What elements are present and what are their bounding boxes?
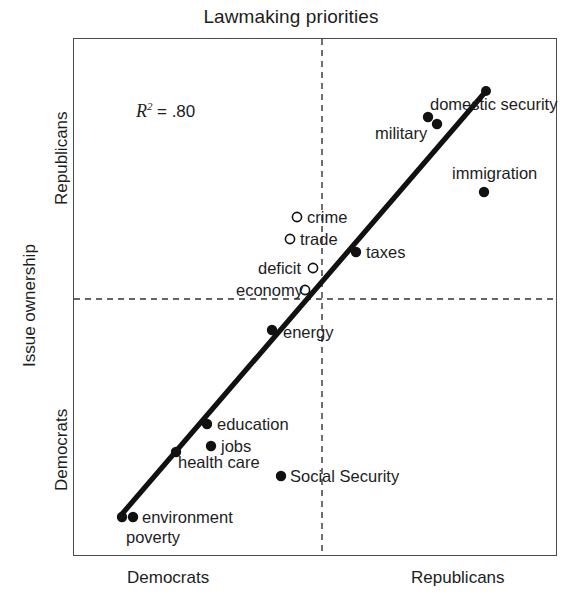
point-label-environment: environment (142, 509, 233, 526)
data-point-energy (267, 325, 277, 335)
data-point-immigration (479, 187, 489, 197)
point-label-social-security: Social Security (290, 468, 399, 485)
point-label-immigration: immigration (452, 165, 537, 182)
y-axis-label-republicans: Republicans (52, 111, 72, 205)
data-point-military (432, 119, 442, 129)
point-label-crime: crime (307, 209, 347, 226)
r-squared-symbol: R (136, 101, 147, 121)
point-label-poverty: poverty (126, 529, 180, 546)
data-point-domestic-security (423, 112, 433, 122)
r-squared-exponent: 2 (147, 100, 153, 112)
point-label-domestic-security: domestic security (430, 96, 557, 113)
y-axis-label-democrats: Democrats (52, 409, 72, 491)
point-label-military: military (375, 125, 427, 142)
data-point-environment (128, 512, 138, 522)
data-point-jobs (206, 441, 216, 451)
data-point-social-security (276, 471, 286, 481)
data-point-deficit (308, 263, 317, 272)
point-label-taxes: taxes (366, 244, 405, 261)
r-squared-value: = .80 (157, 102, 195, 121)
point-label-economy: economy (236, 282, 303, 299)
point-label-trade: trade (300, 231, 338, 248)
x-axis-label-democrats: Democrats (127, 568, 209, 588)
data-point-taxes (351, 247, 361, 257)
data-point-poverty (117, 512, 127, 522)
y-axis-title: Issue ownership (20, 244, 40, 367)
point-label-education: education (217, 416, 289, 433)
x-axis-label-republicans: Republicans (411, 568, 505, 588)
data-point-education (202, 419, 212, 429)
data-point-crime (292, 212, 301, 221)
r-squared-annotation: R2 = .80 (136, 100, 195, 122)
point-label-health-care: health care (178, 454, 260, 471)
point-label-deficit: deficit (258, 260, 301, 277)
scatter-plot-figure: Lawmaking priorities R2 = .80 domestic s… (0, 0, 582, 594)
point-label-energy: energy (283, 324, 333, 341)
data-point-trade (285, 234, 294, 243)
